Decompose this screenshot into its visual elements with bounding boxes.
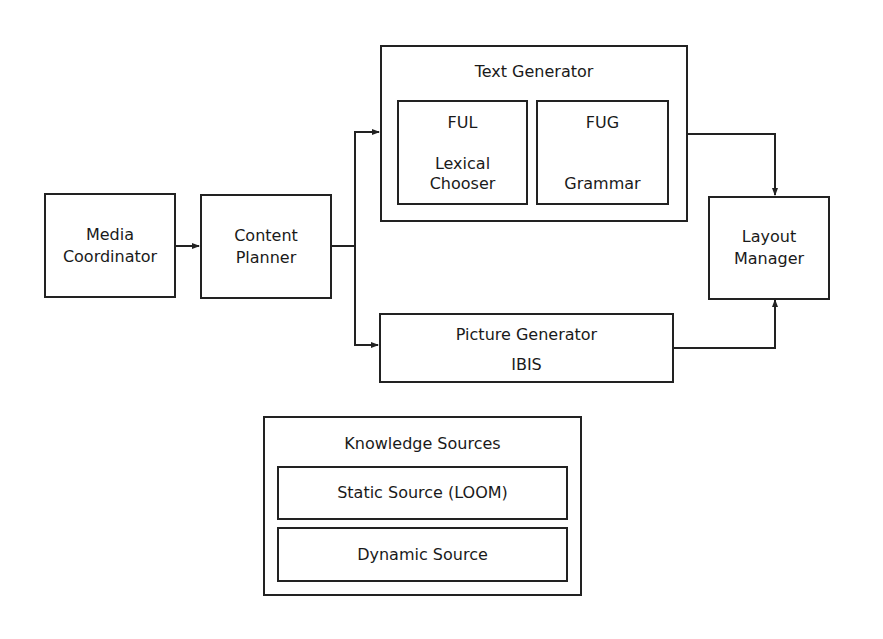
picture-generator-subtitle: IBIS <box>381 354 672 376</box>
fug-box: FUG Grammar <box>536 100 669 205</box>
edge-content-to-text <box>355 132 379 246</box>
picture-generator-box: Picture Generator IBIS <box>379 313 674 383</box>
ful-title: FUL <box>399 112 526 134</box>
dynamic-source-box: Dynamic Source <box>277 527 568 582</box>
media-coordinator-label: Media Coordinator <box>46 224 174 268</box>
content-planner-label: Content Planner <box>202 225 330 269</box>
knowledge-sources-box: Knowledge Sources Static Source (LOOM) D… <box>263 416 582 596</box>
static-source-label: Static Source (LOOM) <box>279 482 566 504</box>
dynamic-source-label: Dynamic Source <box>279 544 566 566</box>
text-generator-title: Text Generator <box>382 61 686 83</box>
content-planner-line-2: Planner <box>202 247 330 269</box>
layout-manager-line-1: Layout <box>710 226 828 248</box>
content-planner-box: Content Planner <box>200 194 332 299</box>
media-coordinator-box: Media Coordinator <box>44 193 176 298</box>
ful-line-1: Lexical <box>399 153 526 175</box>
layout-manager-label: Layout Manager <box>710 226 828 270</box>
knowledge-sources-title: Knowledge Sources <box>265 433 580 455</box>
fug-title: FUG <box>538 112 667 134</box>
layout-manager-box: Layout Manager <box>708 196 830 300</box>
static-source-box: Static Source (LOOM) <box>277 466 568 520</box>
text-generator-box: Text Generator FUL Lexical Chooser FUG G… <box>380 45 688 222</box>
content-planner-line-1: Content <box>202 225 330 247</box>
picture-generator-title: Picture Generator <box>381 324 672 346</box>
ful-line-2: Chooser <box>399 173 526 195</box>
edge-text-to-layout <box>687 134 775 195</box>
ful-box: FUL Lexical Chooser <box>397 100 528 205</box>
edge-content-to-picture <box>355 246 378 345</box>
edge-picture-to-layout <box>673 300 775 348</box>
fug-subtitle: Grammar <box>538 173 667 195</box>
layout-manager-line-2: Manager <box>710 248 828 270</box>
media-coordinator-line-1: Media <box>46 224 174 246</box>
media-coordinator-line-2: Coordinator <box>46 246 174 268</box>
